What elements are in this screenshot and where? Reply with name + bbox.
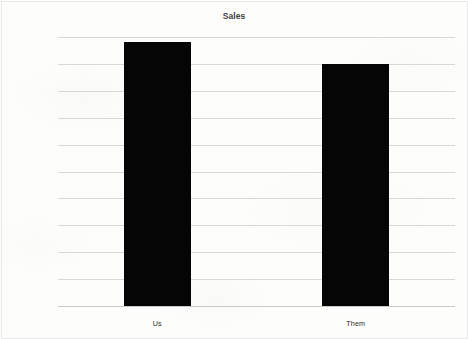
x-axis-tick-label: Them bbox=[257, 319, 456, 328]
x-axis-tick-label: Us bbox=[58, 319, 257, 328]
plot-area: 0500001000001500002000002500003000003500… bbox=[58, 37, 455, 306]
gridline bbox=[58, 118, 455, 119]
gridline bbox=[58, 279, 455, 280]
bar-them bbox=[322, 64, 389, 306]
gridline bbox=[58, 225, 455, 226]
gridline bbox=[58, 145, 455, 146]
gridline bbox=[58, 172, 455, 173]
gridline bbox=[58, 91, 455, 92]
gridline bbox=[58, 306, 455, 307]
gridline bbox=[58, 37, 455, 38]
gridline bbox=[58, 64, 455, 65]
bar-us bbox=[124, 42, 191, 306]
bar-chart: Sales 0500001000001500002000002500003000… bbox=[0, 0, 468, 339]
gridline bbox=[58, 252, 455, 253]
gridline bbox=[58, 198, 455, 199]
chart-title: Sales bbox=[0, 11, 468, 21]
